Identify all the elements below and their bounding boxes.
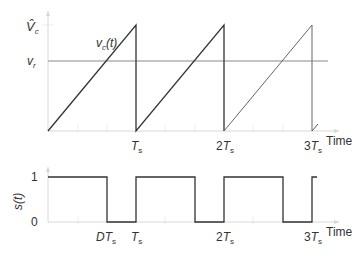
sawtooth-waveform	[48, 25, 224, 131]
sawtooth-start-4	[312, 124, 318, 131]
top-tick-3ts: 3Ts	[304, 139, 322, 155]
vc-curve-label: vc(t)	[96, 36, 117, 52]
bottom-tick-dts: DTs	[96, 230, 116, 246]
top-y-axis-arrow-icon	[46, 10, 50, 16]
bottom-y-axis-arrow-icon	[46, 166, 50, 172]
bottom-tick-2ts: 2Ts	[216, 230, 234, 246]
bottom-tick-ts: Ts	[131, 230, 142, 246]
top-tick-2ts: 2Ts	[216, 139, 234, 155]
top-plot: V̂c vr vc(t) Ts 2Ts 3Ts Time	[26, 10, 353, 155]
bottom-plot: 1 0 s(t) DTs Ts 2Ts 3Ts Time	[11, 166, 353, 246]
bottom-y-axis-label: s(t)	[11, 193, 25, 210]
top-x-axis-label: Time	[326, 134, 353, 148]
pwm-waveform-diagram: V̂c vr vc(t) Ts 2Ts 3Ts Time 1 0 s(t) DT…	[0, 0, 364, 260]
bottom-x-axis-arrow-icon	[334, 220, 340, 224]
ref-voltage-label: vr	[27, 54, 36, 70]
top-tick-ts: Ts	[131, 139, 142, 155]
top-x-axis-arrow-icon	[334, 129, 340, 133]
y-tick-1: 1	[31, 170, 38, 184]
top-grid	[42, 25, 283, 132]
y-tick-0: 0	[31, 215, 38, 229]
switching-signal-waveform	[48, 177, 317, 222]
peak-voltage-label: V̂c	[26, 19, 39, 36]
bottom-x-axis-label: Time	[326, 225, 353, 239]
bottom-grid	[78, 216, 283, 224]
bottom-tick-3ts: 3Ts	[304, 230, 322, 246]
sawtooth-waveform-3	[224, 25, 312, 131]
